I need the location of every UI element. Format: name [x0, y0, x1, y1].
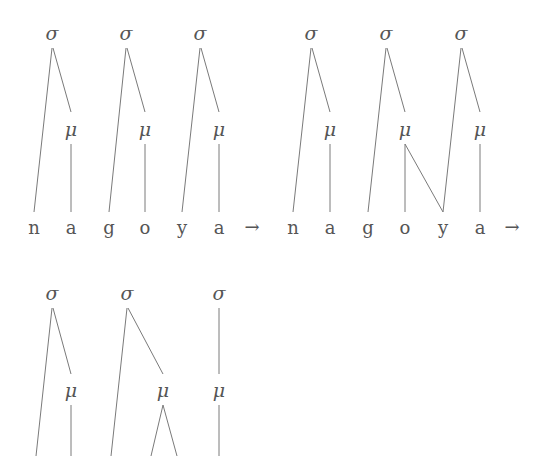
association-line: [36, 308, 52, 456]
mu-node: μ: [157, 379, 169, 401]
segment-o: o: [140, 217, 151, 238]
association-line: [201, 48, 219, 112]
segment-n: n: [287, 217, 299, 238]
association-line: [127, 48, 145, 112]
association-line: [128, 308, 163, 374]
association-line: [109, 48, 126, 212]
association-line: [462, 48, 480, 112]
mu-node: μ: [139, 118, 151, 140]
association-line: [163, 405, 177, 456]
mu-node: μ: [65, 118, 77, 140]
association-line: [387, 48, 405, 112]
sigma-node: σ: [305, 22, 319, 44]
sigma-node: σ: [380, 22, 394, 44]
segment-g: g: [362, 217, 374, 238]
mu-node: μ: [399, 118, 411, 140]
panel-stage-3: σ σ σ μ μ μ: [36, 282, 227, 456]
sigma-node: σ: [46, 22, 60, 44]
mu-node: μ: [213, 379, 225, 401]
segment-o: o: [400, 217, 411, 238]
association-line: [34, 48, 52, 212]
association-line: [151, 405, 163, 456]
sigma-node: σ: [120, 22, 134, 44]
association-line: [443, 48, 461, 212]
association-line: [111, 308, 127, 456]
mu-node: μ: [65, 379, 77, 401]
segment-a: a: [214, 217, 225, 238]
association-line-ambisyllabic: [405, 144, 443, 212]
mu-node: μ: [474, 118, 486, 140]
association-line: [182, 48, 200, 212]
association-line: [53, 308, 71, 374]
segment-y: y: [437, 217, 449, 238]
segment-y: y: [176, 217, 188, 238]
association-line: [368, 48, 386, 212]
association-line: [293, 48, 311, 212]
arrow-icon: →: [504, 216, 519, 237]
diagram-canvas: σ σ σ μ μ μ σ σ σ μ μ μ n: [0, 0, 553, 456]
segment-a: a: [325, 217, 336, 238]
segment-row: n a g o y a → n a g o y a →: [28, 216, 519, 238]
sigma-node: σ: [121, 282, 135, 304]
sigma-node: σ: [194, 22, 208, 44]
segment-n: n: [28, 217, 40, 238]
mu-node: μ: [324, 118, 336, 140]
arrow-icon: →: [244, 216, 259, 237]
sigma-node: σ: [46, 282, 60, 304]
panel-stage-1: σ σ σ μ μ μ: [34, 22, 225, 212]
segment-a: a: [66, 217, 77, 238]
mu-node: μ: [213, 118, 225, 140]
segment-g: g: [103, 217, 115, 238]
segment-a: a: [475, 217, 486, 238]
association-line: [53, 48, 71, 112]
panel-stage-2: σ σ σ μ μ μ: [293, 22, 486, 212]
sigma-node: σ: [455, 22, 469, 44]
sigma-node: σ: [213, 282, 227, 304]
association-line: [312, 48, 330, 112]
